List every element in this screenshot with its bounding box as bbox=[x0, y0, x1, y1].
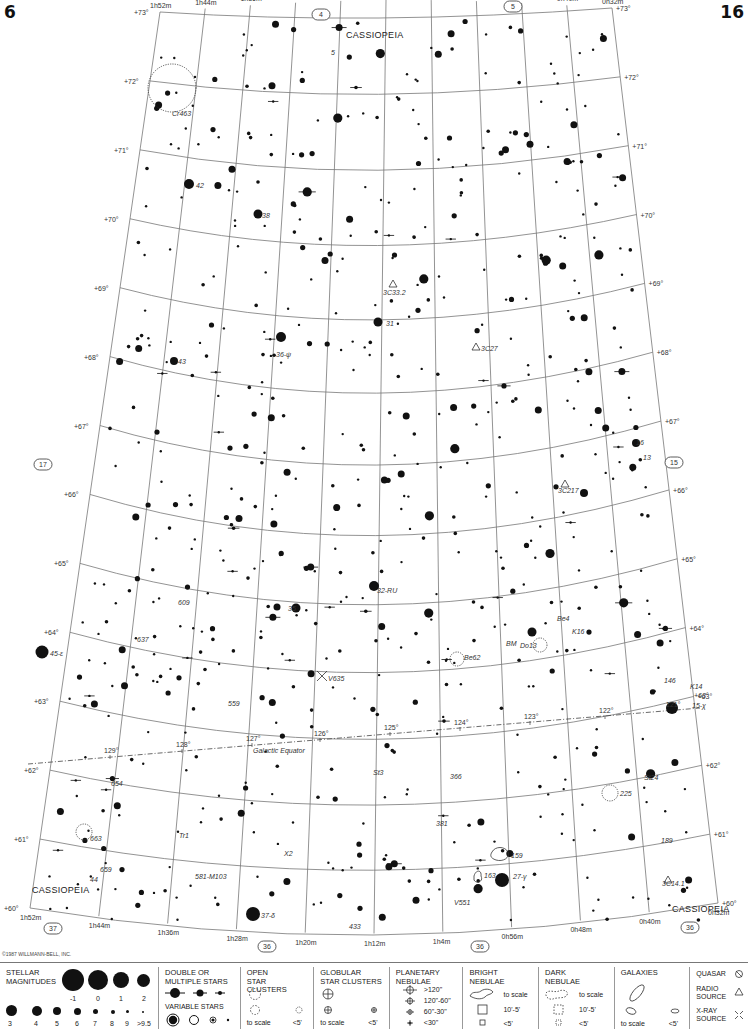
object-label: 654 bbox=[111, 780, 123, 787]
adjacent-chart-number[interactable]: 37 bbox=[49, 925, 57, 932]
star bbox=[322, 257, 329, 264]
star bbox=[505, 298, 507, 300]
bright-star bbox=[580, 489, 588, 497]
object-label: 44 bbox=[90, 876, 98, 883]
star bbox=[613, 326, 617, 330]
magnitude-minus1-dot-icon bbox=[62, 969, 84, 991]
star bbox=[419, 274, 428, 283]
star bbox=[266, 605, 270, 609]
legend-label: X-RAYSOURCE bbox=[696, 1007, 726, 1023]
adjacent-chart-number[interactable]: 5 bbox=[511, 3, 515, 10]
star bbox=[68, 698, 70, 700]
star bbox=[261, 393, 263, 395]
star bbox=[524, 543, 529, 548]
object-label: V551 bbox=[454, 899, 470, 906]
star bbox=[192, 105, 194, 107]
star bbox=[158, 597, 160, 599]
star bbox=[310, 708, 314, 712]
star bbox=[472, 639, 476, 643]
adjacent-chart-number[interactable]: 36 bbox=[263, 943, 271, 950]
star bbox=[619, 247, 621, 249]
star bbox=[287, 308, 289, 310]
star bbox=[640, 570, 642, 572]
star bbox=[573, 279, 575, 281]
star bbox=[413, 897, 420, 904]
star bbox=[511, 399, 515, 403]
adjacent-chart-number[interactable]: 36 bbox=[476, 943, 484, 950]
star bbox=[374, 230, 378, 234]
star bbox=[525, 298, 527, 300]
star bbox=[271, 508, 273, 510]
star bbox=[577, 380, 579, 382]
star bbox=[135, 345, 142, 352]
star bbox=[280, 734, 285, 739]
star bbox=[671, 759, 678, 766]
star bbox=[645, 486, 647, 488]
star bbox=[450, 47, 454, 51]
adjacent-chart-number[interactable]: 4 bbox=[319, 11, 323, 18]
star bbox=[597, 153, 602, 158]
ra-label-bottom: 1h20m bbox=[295, 939, 317, 946]
star bbox=[586, 877, 588, 879]
magnitude-4-dot-icon bbox=[32, 1006, 42, 1016]
star bbox=[251, 44, 253, 46]
adjacent-chart-number[interactable]: 17 bbox=[39, 461, 47, 468]
star bbox=[573, 407, 575, 409]
star bbox=[450, 404, 457, 411]
star bbox=[320, 902, 322, 904]
star bbox=[245, 85, 249, 89]
star bbox=[500, 707, 504, 711]
star bbox=[325, 657, 327, 659]
copyright: ©1987 WILLMANN-BELL, INC. bbox=[2, 951, 71, 957]
adjacent-chart-number[interactable]: 36 bbox=[686, 924, 694, 931]
star bbox=[135, 903, 140, 908]
legend-label: RADIOSOURCE bbox=[696, 985, 726, 1001]
star bbox=[291, 27, 296, 32]
star bbox=[594, 453, 596, 455]
star bbox=[243, 444, 248, 449]
star bbox=[387, 638, 389, 640]
star bbox=[388, 411, 392, 415]
star bbox=[153, 635, 157, 639]
star bbox=[254, 304, 258, 308]
star bbox=[230, 488, 232, 490]
star bbox=[577, 74, 579, 76]
adjacent-chart-number[interactable]: 15 bbox=[670, 459, 678, 466]
radio-source-icon bbox=[734, 987, 744, 997]
star bbox=[350, 866, 352, 868]
star bbox=[397, 323, 399, 325]
star bbox=[189, 885, 191, 887]
star bbox=[642, 738, 644, 740]
object-label: 31 bbox=[386, 320, 394, 327]
star bbox=[97, 888, 99, 890]
magnitude-6-dot-icon bbox=[74, 1008, 81, 1015]
constellation-label: CASSIOPEIA bbox=[32, 885, 90, 895]
star bbox=[390, 353, 394, 357]
variable-star-icons bbox=[163, 1013, 235, 1027]
object-label: 163 bbox=[484, 872, 496, 879]
star bbox=[256, 876, 258, 878]
star bbox=[447, 135, 452, 140]
star bbox=[152, 680, 154, 682]
star bbox=[159, 675, 163, 679]
star bbox=[614, 185, 616, 187]
star bbox=[87, 830, 89, 832]
star bbox=[270, 520, 277, 527]
star bbox=[130, 758, 134, 762]
star bbox=[176, 675, 181, 680]
star bbox=[210, 127, 215, 132]
bright-star bbox=[495, 873, 509, 887]
star bbox=[353, 697, 355, 699]
star bbox=[681, 888, 686, 893]
star bbox=[397, 375, 401, 379]
star bbox=[513, 130, 518, 135]
star bbox=[302, 447, 306, 451]
star bbox=[486, 483, 491, 488]
star bbox=[593, 829, 595, 831]
star bbox=[538, 785, 542, 789]
star bbox=[385, 863, 392, 870]
star bbox=[452, 166, 454, 168]
star bbox=[313, 903, 315, 905]
star bbox=[169, 248, 171, 250]
legend-label: <5' bbox=[368, 1019, 377, 1026]
